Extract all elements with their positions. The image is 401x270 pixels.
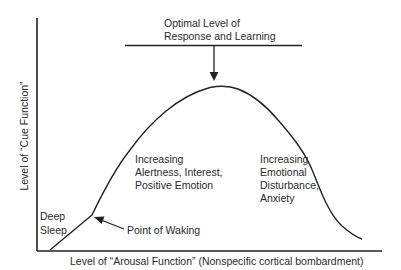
point-of-waking-label: Point of Waking	[127, 224, 200, 238]
falling-label-line1: Increasing	[260, 153, 308, 167]
rising-label-line2: Alertness, Interest,	[135, 166, 223, 180]
optimal-level-label-line1: Optimal Level of	[164, 17, 240, 31]
optimal-arrow-icon	[210, 46, 219, 81]
falling-label-line3: Disturbance,	[260, 179, 319, 193]
deep-sleep-label-line2: Sleep	[40, 224, 67, 238]
x-axis-label: Level of “Arousal Function” (Nonspecific…	[70, 255, 364, 269]
rising-label-line3: Positive Emotion	[135, 179, 213, 193]
rising-label-line1: Increasing	[135, 153, 183, 167]
falling-label-line4: Anxiety	[260, 192, 294, 206]
waking-arrow-icon	[94, 217, 124, 230]
deep-sleep-label-line1: Deep	[40, 210, 65, 224]
falling-label-line2: Emotional	[260, 166, 307, 180]
y-axis-label: Level of “Cue Function”	[18, 81, 30, 190]
optimal-level-label-line2: Response and Learning	[164, 30, 276, 44]
